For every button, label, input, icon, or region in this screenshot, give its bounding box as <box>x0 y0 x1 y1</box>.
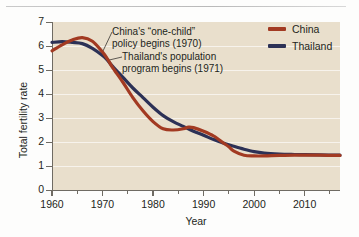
legend-swatch-icon <box>268 27 286 31</box>
legend-item-china: China <box>268 22 332 36</box>
legend-swatch-icon <box>268 44 286 48</box>
annotation-china-policy: China's “one-child” policy begins (1970) <box>112 26 202 49</box>
annotation-thailand-program: Thailand's population program begins (19… <box>122 51 223 74</box>
chart-legend: ChinaThailand <box>268 22 332 56</box>
legend-label: China <box>292 23 319 35</box>
annotation-leader-line <box>103 32 112 52</box>
legend-item-thailand: Thailand <box>268 39 332 53</box>
chart-figure: 01234567 196019701980199020002010 Total … <box>0 0 359 237</box>
legend-label: Thailand <box>292 40 332 52</box>
